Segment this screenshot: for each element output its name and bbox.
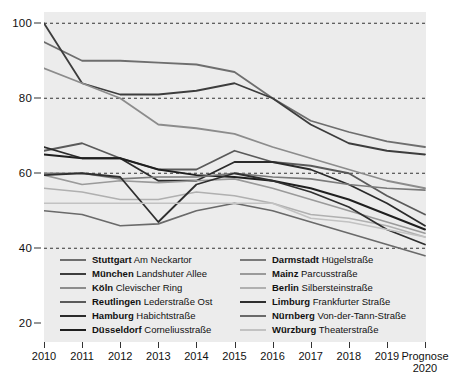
legend-label: Darmstadt Hügelstraße (272, 255, 373, 265)
y-tick-label: 20 (19, 317, 32, 329)
legend-label: Hamburg Habichtstraße (92, 311, 195, 321)
legend-label: München Landshuter Allee (92, 269, 207, 279)
legend-city: Berlin (272, 282, 299, 293)
series-line (44, 203, 425, 256)
x-tick-mark (120, 342, 121, 348)
legend-item[interactable]: München Landshuter Allee (60, 267, 240, 281)
legend-color-swatch (60, 273, 86, 275)
x-tick-label: 2018 (337, 350, 361, 362)
series-line (44, 188, 425, 237)
x-tick-mark (44, 342, 45, 348)
y-tick-mark (34, 248, 41, 249)
x-tick-label-line1: 2019 (375, 350, 399, 362)
legend-item[interactable]: Limburg Frankfurter Straße (240, 295, 426, 309)
legend-label: Limburg Frankfurter Straße (272, 297, 390, 307)
x-tick-mark (158, 342, 159, 348)
y-tick-label: 80 (19, 92, 32, 104)
legend-item[interactable]: Hamburg Habichtstraße (60, 309, 240, 323)
y-tick-label: 60 (19, 167, 32, 179)
x-tick-label-line1: 2014 (184, 350, 208, 362)
legend-city: Köln (92, 282, 113, 293)
x-tick-label: 2015 (222, 350, 246, 362)
legend-street: Lederstraße Ost (141, 296, 212, 307)
x-tick-label: 2014 (184, 350, 208, 362)
legend-color-swatch (60, 315, 86, 317)
x-tick-label: 2010 (32, 350, 56, 362)
x-axis: 2010201120122013201420152016201720182019… (44, 342, 426, 385)
legend-color-swatch (60, 259, 86, 261)
legend-city: Reutlingen (92, 296, 141, 307)
x-tick-label: 2013 (146, 350, 170, 362)
legend-street: Von-der-Tann-Straße (315, 310, 406, 321)
legend-label: Köln Clevischer Ring (92, 283, 182, 293)
legend-city: Hamburg (92, 310, 134, 321)
legend-color-swatch (60, 329, 86, 331)
legend-color-swatch (60, 287, 86, 289)
x-tick-label: 2016 (260, 350, 284, 362)
legend-city: Würzburg (272, 324, 316, 335)
legend-item[interactable]: Darmstadt Hügelstraße (240, 253, 426, 267)
x-tick-label-line1: 2015 (222, 350, 246, 362)
legend-item[interactable]: Nürnberg Von-der-Tann-Straße (240, 309, 426, 323)
legend-item[interactable]: Reutlingen Lederstraße Ost (60, 295, 240, 309)
legend-label: Reutlingen Lederstraße Ost (92, 297, 212, 307)
x-tick-label-line1: Prognose (401, 350, 448, 362)
legend-label: Würzburg Theaterstraße (272, 325, 378, 335)
legend-city: Darmstadt (272, 254, 319, 265)
x-tick-mark (235, 342, 236, 348)
y-tick-label: 100 (12, 17, 32, 29)
y-tick-mark (34, 23, 41, 24)
x-tick-label: 2011 (70, 350, 94, 362)
x-tick-label-line1: 2016 (260, 350, 284, 362)
legend-item[interactable]: Düsseldorf Corneliusstraße (60, 323, 240, 337)
x-tick-mark (425, 342, 426, 348)
x-tick-mark (311, 342, 312, 348)
chart-legend: Stuttgart Am NeckartorMünchen Landshuter… (60, 253, 426, 337)
legend-street: Corneliusstraße (142, 324, 212, 335)
legend-color-swatch (240, 301, 266, 303)
legend-street: Hügelstraße (319, 254, 373, 265)
y-tick-mark (34, 173, 41, 174)
series-line (44, 42, 425, 147)
y-tick-mark (34, 98, 41, 99)
x-tick-mark (349, 342, 350, 348)
legend-item[interactable]: Köln Clevischer Ring (60, 281, 240, 295)
y-axis: 10080604020 (0, 0, 44, 342)
x-tick-label: 2017 (298, 350, 322, 362)
legend-label: Düsseldorf Corneliusstraße (92, 325, 211, 335)
x-tick-label-line1: 2011 (70, 350, 94, 362)
x-tick-label-line1: 2013 (146, 350, 170, 362)
y-tick-mark (34, 323, 41, 324)
legend-item[interactable]: Stuttgart Am Neckartor (60, 253, 240, 267)
legend-street: Silbersteinstraße (299, 282, 373, 293)
series-line (44, 68, 425, 188)
x-tick-label-line1: 2017 (298, 350, 322, 362)
legend-city: Mainz (272, 268, 298, 279)
legend-column-left: Stuttgart Am NeckartorMünchen Landshuter… (60, 253, 240, 337)
legend-item[interactable]: Würzburg Theaterstraße (240, 323, 426, 337)
legend-color-swatch (240, 287, 266, 289)
legend-street: Habichtstraße (134, 310, 196, 321)
legend-label: Stuttgart Am Neckartor (92, 255, 192, 265)
x-tick-mark (196, 342, 197, 348)
x-tick-label-line1: 2012 (108, 350, 132, 362)
x-tick-label: 2012 (108, 350, 132, 362)
legend-color-swatch (60, 301, 86, 303)
legend-item[interactable]: Mainz Parcusstraße (240, 267, 426, 281)
legend-street: Parcusstraße (298, 268, 357, 279)
legend-color-swatch (240, 315, 266, 317)
legend-item[interactable]: Berlin Silbersteinstraße (240, 281, 426, 295)
legend-column-right: Darmstadt HügelstraßeMainz ParcusstraßeB… (240, 253, 426, 337)
x-tick-mark (273, 342, 274, 348)
legend-color-swatch (240, 273, 266, 275)
x-tick-label-line1: 2018 (337, 350, 361, 362)
legend-city: München (92, 268, 134, 279)
legend-label: Nürnberg Von-der-Tann-Straße (272, 311, 406, 321)
legend-city: Limburg (272, 296, 310, 307)
x-tick-label: 2019 (375, 350, 399, 362)
legend-color-swatch (240, 259, 266, 261)
legend-city: Nürnberg (272, 310, 315, 321)
x-tick-label: Prognose2020 (401, 350, 448, 374)
x-tick-mark (387, 342, 388, 348)
x-tick-label-line2: 2020 (401, 362, 448, 374)
